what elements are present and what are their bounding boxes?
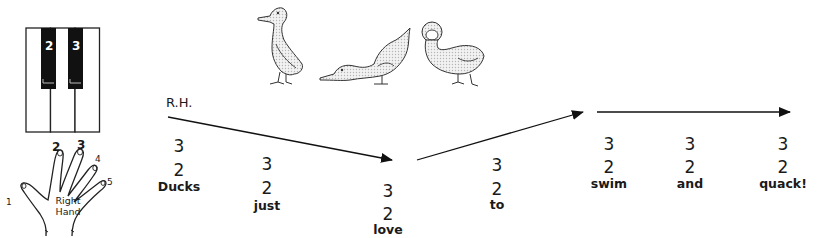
note-upper-finger: 3 [164, 138, 194, 155]
melody-direction-arrows [0, 0, 817, 238]
note-lower-finger: 2 [768, 159, 798, 176]
lyric-word: Ducks [144, 181, 214, 194]
note-upper-finger: 3 [594, 136, 624, 153]
note-lower-finger: 2 [675, 159, 705, 176]
lyric-word: love [353, 224, 423, 237]
lyric-word: swim [574, 178, 644, 191]
note-lower-finger: 2 [164, 162, 194, 179]
lyric-word: and [655, 178, 725, 191]
arrow-up-icon [417, 112, 583, 160]
note-lower-finger: 2 [594, 159, 624, 176]
lyric-word: to [462, 199, 532, 212]
note-upper-finger: 3 [373, 183, 403, 200]
note-upper-finger: 3 [675, 136, 705, 153]
note-lower-finger: 2 [373, 206, 403, 223]
note-lower-finger: 2 [252, 180, 282, 197]
arrow-down-icon [168, 117, 392, 160]
note-upper-finger: 3 [482, 157, 512, 174]
note-lower-finger: 2 [482, 181, 512, 198]
lyric-word: quack! [748, 178, 817, 191]
lyric-word: just [232, 200, 302, 213]
music-lesson-page: 2 3 1 2 3 4 5 Right Hand [0, 0, 817, 238]
note-upper-finger: 3 [252, 156, 282, 173]
note-upper-finger: 3 [768, 136, 798, 153]
